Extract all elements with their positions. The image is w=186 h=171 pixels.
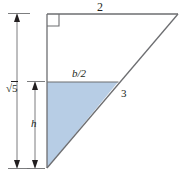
label-top-edge: 2 — [97, 1, 103, 13]
geometry-figure: 2 3 b/2 h √5 — [0, 0, 186, 171]
slant-dimension-arrow-top — [14, 13, 20, 22]
slant-dimension-arrow-bottom — [14, 160, 20, 169]
height-dimension-arrow-bottom — [32, 160, 38, 169]
right-angle-icon — [47, 14, 59, 26]
figure-canvas — [0, 0, 186, 171]
label-half-base: b/2 — [72, 68, 86, 79]
label-hypotenuse-segment: 3 — [121, 88, 127, 99]
label-slant-radicand: 5 — [11, 81, 18, 94]
label-slant-dimension: √5 — [6, 83, 18, 94]
label-height: h — [31, 118, 37, 129]
height-dimension-arrow-top — [32, 81, 38, 90]
